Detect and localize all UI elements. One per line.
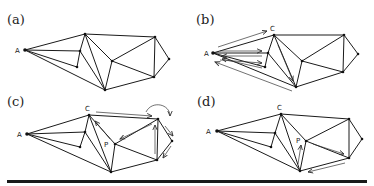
panel-a: A (15, 33, 170, 92)
vertex-label: A (17, 131, 22, 139)
triangulation-diagram: AACACPACP (0, 0, 374, 186)
edge (25, 50, 80, 51)
panel-label-d: (d) (197, 94, 215, 109)
vertex-BR (342, 71, 345, 74)
vertex-R (361, 138, 364, 141)
vertex-I1 (274, 132, 277, 135)
vertex-label: A (15, 47, 20, 55)
vertex-I2 (270, 146, 273, 149)
panel-d: ACP (206, 104, 363, 172)
panel-c: ACP (17, 105, 173, 174)
edge (27, 115, 89, 134)
edge (213, 35, 274, 53)
vertex-I1 (79, 50, 82, 53)
edge (111, 144, 115, 172)
edge (85, 34, 112, 61)
edge (296, 72, 343, 87)
vertex-label: P (296, 137, 300, 145)
vertex-TR (343, 34, 346, 37)
edge (274, 35, 302, 61)
vertex-P (301, 60, 304, 63)
panel-label-a: (a) (7, 12, 25, 27)
edge (343, 35, 344, 72)
vertex-P (305, 140, 308, 143)
panel-b: AC (204, 25, 359, 91)
vertex-P (111, 60, 114, 63)
edge (344, 35, 358, 54)
edge (105, 77, 154, 90)
edge (85, 115, 89, 132)
edge (112, 61, 154, 77)
edge (306, 119, 349, 141)
vertex-TR (154, 36, 157, 39)
edge (154, 37, 155, 77)
edge (27, 134, 80, 147)
edge (157, 141, 172, 160)
edge (217, 131, 275, 133)
vertex-R (168, 58, 171, 61)
edge (158, 119, 172, 141)
panel-label-b: (b) (196, 12, 214, 27)
edge (265, 53, 268, 67)
edge (80, 34, 85, 51)
edge (349, 139, 362, 158)
edge (217, 114, 281, 131)
edge (300, 158, 349, 171)
edge (217, 131, 300, 171)
edge (105, 61, 112, 90)
edge (306, 141, 349, 158)
bottom-rule (7, 180, 367, 183)
vertex-B (295, 86, 298, 89)
edge (302, 61, 343, 72)
vertex-A (215, 129, 219, 133)
edge (77, 51, 80, 67)
vertex-I2 (79, 146, 82, 149)
arrow (313, 144, 344, 154)
edge (25, 50, 77, 67)
vertex-I2 (264, 66, 267, 69)
edge (25, 34, 85, 50)
edge (343, 54, 358, 72)
vertex-label: A (204, 50, 209, 58)
edge (268, 35, 274, 53)
edge (27, 132, 85, 134)
vertex-label: C (277, 104, 282, 112)
edge (302, 35, 344, 61)
edge (111, 160, 157, 172)
vertex-C (84, 33, 87, 36)
edge (155, 37, 169, 59)
edge (154, 59, 169, 77)
edge (115, 144, 157, 160)
vertex-A (211, 51, 215, 55)
vertex-A (25, 132, 29, 136)
vertex-BR (348, 157, 351, 160)
vertex-TR (348, 118, 351, 121)
edge (281, 114, 306, 141)
vertex-label: A (206, 128, 211, 136)
edge (271, 133, 275, 147)
edge (281, 114, 349, 119)
vertex-B (299, 170, 302, 173)
edge (157, 119, 158, 160)
vertex-label: C (270, 25, 275, 33)
vertex-BR (153, 76, 156, 79)
edge (275, 114, 281, 133)
arrow (120, 124, 152, 139)
vertex-B (104, 89, 107, 92)
vertex-P (114, 143, 117, 146)
vertex-I1 (267, 52, 270, 55)
edge (85, 34, 155, 37)
arrow (298, 145, 301, 164)
edge (217, 131, 271, 147)
vertex-BR (156, 159, 159, 162)
edge (349, 119, 362, 139)
vertex-TR (157, 118, 160, 121)
curved-arrow (146, 105, 170, 116)
edge (112, 37, 155, 61)
vertex-A (23, 48, 27, 52)
vertex-I2 (76, 66, 79, 69)
vertex-label: P (104, 141, 108, 149)
edge (268, 53, 296, 87)
vertex-C (280, 113, 283, 116)
vertex-C (88, 114, 91, 117)
